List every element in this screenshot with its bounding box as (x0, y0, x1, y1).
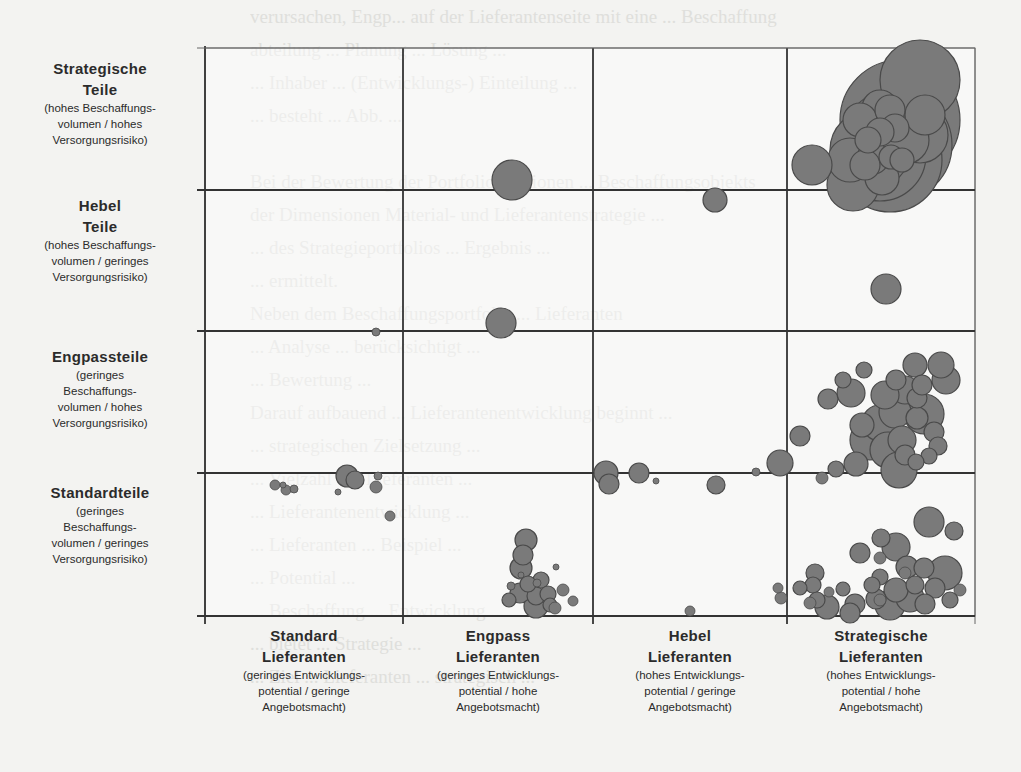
bubble (372, 328, 380, 336)
bubble (864, 577, 880, 593)
bubble (335, 489, 341, 495)
bubble (653, 478, 659, 484)
bubble (270, 480, 280, 490)
bubble (804, 597, 816, 609)
bubble (824, 587, 834, 597)
bubble-portfolio-chart (0, 0, 1021, 772)
bubble (486, 308, 516, 338)
bubble (835, 372, 851, 388)
bubble (502, 593, 516, 607)
bubble (507, 582, 515, 590)
bubble (836, 582, 850, 596)
bubble (886, 370, 906, 390)
bubble (790, 426, 810, 446)
bubble (856, 362, 872, 378)
bubble (492, 160, 532, 200)
bubble (599, 474, 619, 494)
bubble (954, 584, 966, 596)
bubble (370, 481, 382, 493)
bubble (855, 127, 881, 153)
bubble (850, 150, 880, 180)
bubble (752, 468, 760, 476)
bubble (871, 274, 901, 304)
bubble (915, 594, 935, 614)
bubble (828, 461, 844, 477)
bubble (385, 511, 395, 521)
bubble (914, 558, 934, 578)
bubble (290, 485, 298, 493)
bubble (872, 529, 890, 547)
bubble (805, 577, 821, 593)
bubble (374, 472, 382, 480)
bubble (928, 352, 954, 378)
bubble (707, 476, 725, 494)
bubble (549, 602, 561, 614)
bubble (874, 594, 886, 606)
bubble (914, 507, 944, 537)
bubble (792, 145, 832, 185)
bubble (773, 583, 783, 593)
bubble (840, 603, 860, 623)
bubble (818, 389, 838, 409)
bubble (557, 584, 569, 596)
bubble (568, 596, 578, 606)
bubble (703, 188, 727, 212)
bubble (518, 572, 524, 578)
bubble (850, 413, 874, 437)
bubble (533, 579, 541, 587)
bubble (513, 545, 533, 565)
bubble (767, 450, 793, 476)
bubble (346, 471, 364, 489)
bubble (905, 95, 945, 135)
bubble (874, 552, 886, 564)
bubble (553, 564, 559, 570)
bubble (816, 472, 828, 484)
bubble (629, 463, 649, 483)
bubble (844, 452, 868, 476)
bubble (775, 592, 787, 604)
bubble (899, 567, 911, 579)
bubble (912, 375, 932, 395)
bubble (906, 576, 924, 594)
bubble (850, 543, 870, 563)
bubble (903, 353, 927, 377)
bubble (793, 581, 807, 595)
bubble (906, 407, 928, 429)
bubble (884, 578, 908, 602)
bubble (890, 148, 914, 172)
bubble (945, 522, 963, 540)
bubble (908, 454, 924, 470)
bubble (685, 606, 695, 616)
bubble (280, 482, 286, 488)
